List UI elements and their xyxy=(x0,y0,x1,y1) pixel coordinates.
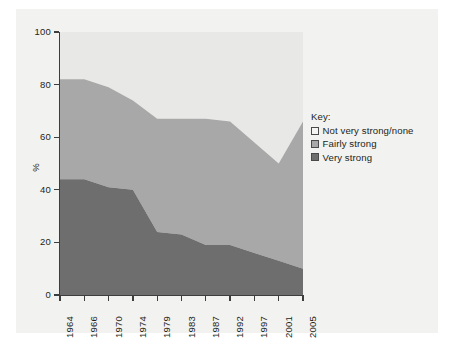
x-tick-label: 1997 xyxy=(258,316,269,338)
legend-title: Key: xyxy=(311,110,414,123)
legend-swatch xyxy=(311,140,319,148)
x-tick-label: 1966 xyxy=(88,316,99,338)
x-tick-label: 1979 xyxy=(161,316,172,338)
x-tick-label: 2005 xyxy=(307,316,318,338)
y-tick xyxy=(54,31,59,32)
y-tick xyxy=(54,137,59,138)
y-tick-label: 80 xyxy=(21,79,51,90)
chart-figure: 100806040200 196419661970197419791983198… xyxy=(0,0,454,348)
legend-swatch xyxy=(311,127,319,135)
x-tick xyxy=(157,296,158,301)
x-tick xyxy=(84,296,85,301)
y-axis-tick-labels: 100806040200 xyxy=(19,0,51,348)
y-tick-label: 20 xyxy=(21,236,51,247)
legend-label: Very strong xyxy=(323,151,373,164)
legend-swatch xyxy=(311,153,319,161)
x-tick xyxy=(254,296,255,301)
legend-label: Not very strong/none xyxy=(323,124,414,137)
y-axis-title: % xyxy=(30,163,41,171)
y-tick-label: 40 xyxy=(21,184,51,195)
legend-item: Fairly strong xyxy=(311,137,414,150)
y-tick xyxy=(54,294,59,295)
x-tick xyxy=(302,296,303,301)
y-tick-label: 60 xyxy=(21,131,51,142)
stacked-area-svg xyxy=(60,32,303,295)
x-tick xyxy=(205,296,206,301)
x-tick xyxy=(108,296,109,301)
chart-legend: Key: Not very strong/noneFairly strongVe… xyxy=(311,110,414,164)
plot-area xyxy=(60,32,303,295)
x-tick-label: 2001 xyxy=(283,316,294,338)
y-tick-label: 0 xyxy=(21,289,51,300)
x-tick xyxy=(229,296,230,301)
x-tick xyxy=(59,296,60,301)
x-tick-label: 1987 xyxy=(210,316,221,338)
y-tick xyxy=(54,189,59,190)
x-tick xyxy=(132,296,133,301)
y-tick xyxy=(54,84,59,85)
legend-items: Not very strong/noneFairly strongVery st… xyxy=(311,124,414,164)
x-tick xyxy=(181,296,182,301)
x-tick-label: 1992 xyxy=(234,316,245,338)
legend-item: Not very strong/none xyxy=(311,124,414,137)
x-tick-label: 1964 xyxy=(64,316,75,338)
x-tick xyxy=(278,296,279,301)
y-axis-line xyxy=(59,32,60,296)
x-tick-label: 1970 xyxy=(113,316,124,338)
x-tick-label: 1983 xyxy=(186,316,197,338)
y-tick-label: 100 xyxy=(21,26,51,37)
legend-item: Very strong xyxy=(311,151,414,164)
x-tick-label: 1974 xyxy=(137,316,148,338)
legend-label: Fairly strong xyxy=(323,137,377,150)
y-tick xyxy=(54,242,59,243)
